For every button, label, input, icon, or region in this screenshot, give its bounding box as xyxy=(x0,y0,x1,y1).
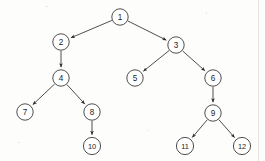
edge-9-to-11 xyxy=(192,120,207,138)
nodes-layer: 123456789101112 xyxy=(17,9,251,155)
node-label-3: 3 xyxy=(174,41,179,50)
node-label-2: 2 xyxy=(59,38,64,47)
edge-4-to-7 xyxy=(33,84,55,105)
node-label-1: 1 xyxy=(118,13,123,22)
tree-node-9[interactable]: 9 xyxy=(205,105,221,121)
tree-node-8[interactable]: 8 xyxy=(84,104,100,120)
node-label-12: 12 xyxy=(238,142,246,151)
node-label-9: 9 xyxy=(211,109,216,118)
tree-node-6[interactable]: 6 xyxy=(205,70,221,86)
tree-diagram-canvas: 123456789101112 xyxy=(0,0,265,161)
edge-1-to-3 xyxy=(128,21,166,40)
node-label-8: 8 xyxy=(90,108,95,117)
tree-node-5[interactable]: 5 xyxy=(127,70,143,86)
node-label-7: 7 xyxy=(23,108,28,117)
tree-node-1[interactable]: 1 xyxy=(112,9,128,25)
tree-node-11[interactable]: 11 xyxy=(176,137,193,154)
edge-3-to-5 xyxy=(143,51,169,72)
tree-node-4[interactable]: 4 xyxy=(53,70,69,86)
node-label-5: 5 xyxy=(133,74,138,83)
tree-graphic: 123456789101112 xyxy=(0,0,265,161)
edge-4-to-8 xyxy=(67,85,85,105)
edge-1-to-2 xyxy=(71,20,112,37)
tree-node-3[interactable]: 3 xyxy=(168,37,184,53)
edge-9-to-12 xyxy=(219,120,235,138)
node-label-11: 11 xyxy=(181,142,189,151)
edge-3-to-6 xyxy=(183,51,205,71)
node-label-10: 10 xyxy=(88,142,96,151)
node-label-6: 6 xyxy=(211,74,216,83)
tree-node-10[interactable]: 10 xyxy=(83,137,100,154)
tree-node-7[interactable]: 7 xyxy=(17,104,33,120)
node-label-4: 4 xyxy=(59,74,64,83)
tree-node-2[interactable]: 2 xyxy=(53,34,69,50)
tree-node-12[interactable]: 12 xyxy=(233,137,250,154)
